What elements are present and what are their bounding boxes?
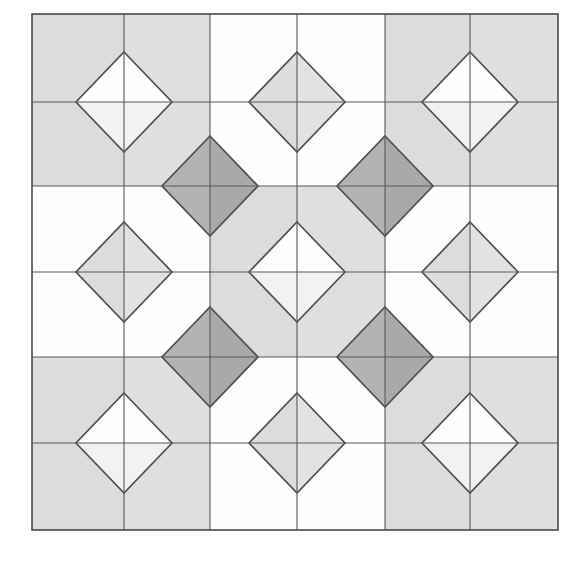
pattern-canvas: Quilt-style geometric tiling Square grid… — [0, 0, 586, 567]
geometric-tiling-figure: Quilt-style geometric tiling Square grid… — [0, 0, 586, 567]
